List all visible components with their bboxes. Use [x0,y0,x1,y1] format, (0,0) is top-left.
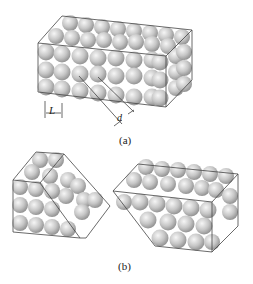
caption-a: (a) [119,134,131,146]
label-L: L [49,104,55,116]
block-b-right [113,159,238,252]
caption-b: (b) [118,260,131,272]
block-b-left [12,152,110,238]
block-a [38,15,193,126]
label-d: d [117,112,122,123]
